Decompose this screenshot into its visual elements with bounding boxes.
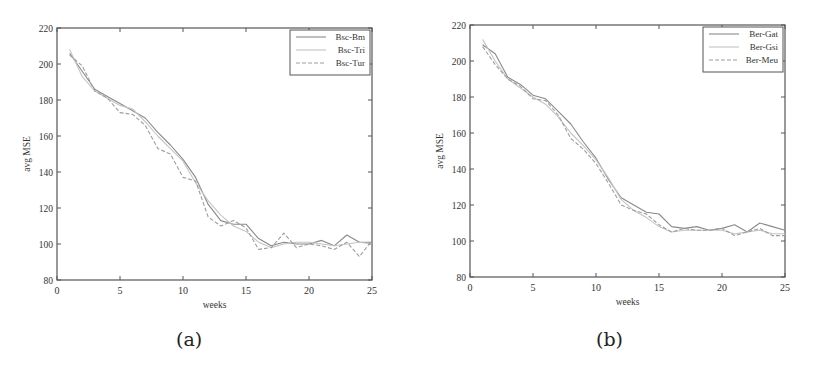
y-tick-label: 140 [39, 168, 54, 178]
x-tick-label: 0 [55, 285, 60, 296]
caption-b: (b) [596, 328, 623, 350]
y-axis-label: avg MSE [22, 136, 32, 172]
line-chart-a: 051015202580100120140160180200220weeksav… [0, 0, 408, 320]
x-tick-label: 10 [178, 285, 188, 296]
x-tick-label: 5 [118, 285, 123, 296]
y-axis-label: avg MSE [435, 133, 445, 169]
x-axis-label: weeks [203, 300, 227, 310]
x-tick-label: 0 [468, 282, 473, 293]
y-tick-label: 120 [452, 201, 467, 211]
series-line-ber-gat [483, 45, 785, 232]
y-tick-label: 80 [44, 276, 54, 286]
chart-panel-a: 051015202580100120140160180200220weeksav… [0, 0, 408, 320]
series-line-ber-meu [483, 47, 785, 236]
y-tick-label: 160 [39, 132, 54, 142]
legend-label: Ber-Gsi [750, 42, 779, 52]
y-tick-label: 200 [452, 57, 467, 67]
caption-a: (a) [176, 328, 202, 350]
legend-label: Bsc-Tur [336, 58, 365, 68]
legend-label: Bsc-Bm [335, 32, 365, 42]
series-line-bsc-tri [70, 50, 372, 248]
x-tick-label: 15 [241, 285, 251, 296]
y-tick-label: 100 [452, 237, 467, 247]
y-tick-label: 200 [39, 60, 54, 70]
y-tick-label: 140 [452, 165, 467, 175]
x-tick-label: 25 [780, 282, 790, 293]
x-tick-label: 5 [531, 282, 536, 293]
y-tick-label: 180 [452, 93, 467, 103]
series-line-bsc-tur [70, 55, 372, 257]
series-line-bsc-bm [70, 53, 372, 246]
legend: Bsc-BmBsc-TriBsc-Tur [290, 30, 370, 75]
x-tick-label: 20 [304, 285, 314, 296]
x-tick-label: 10 [591, 282, 601, 293]
x-axis-label: weeks [616, 297, 640, 307]
x-tick-label: 20 [717, 282, 727, 293]
legend-label: Bsc-Tri [338, 45, 366, 55]
x-tick-label: 15 [654, 282, 664, 293]
line-chart-b: 051015202580100120140160180200220weeksav… [408, 0, 815, 320]
y-tick-label: 80 [457, 273, 467, 283]
y-tick-label: 220 [452, 21, 467, 31]
y-tick-label: 100 [39, 240, 54, 250]
y-tick-label: 180 [39, 96, 54, 106]
y-tick-label: 120 [39, 204, 54, 214]
chart-panel-b: 051015202580100120140160180200220weeksav… [408, 0, 815, 320]
legend-label: Ber-Meu [746, 55, 779, 65]
y-tick-label: 220 [39, 24, 54, 34]
legend: Ber-GatBer-GsiBer-Meu [703, 27, 783, 72]
legend-label: Ber-Gat [749, 29, 778, 39]
y-tick-label: 160 [452, 129, 467, 139]
x-tick-label: 25 [367, 285, 377, 296]
